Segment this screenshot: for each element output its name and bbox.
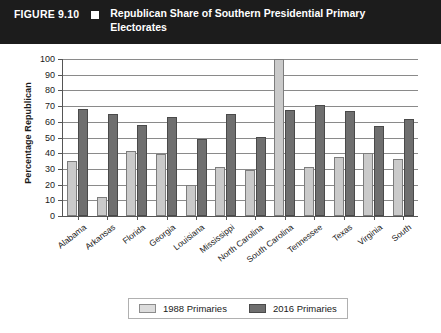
bar-1988 <box>245 170 255 216</box>
y-axis-title: Percentage Republican <box>23 53 33 213</box>
bar-2016 <box>345 111 355 216</box>
y-axis-tick-label: 0 <box>50 211 55 221</box>
black-square-icon <box>91 11 99 19</box>
bar-2016 <box>167 117 177 216</box>
bar-1988 <box>274 59 284 216</box>
bar-2016 <box>256 137 266 216</box>
figure-title: Republican Share of Southern Presidentia… <box>110 7 378 34</box>
y-axis-tick-label: 50 <box>45 133 55 143</box>
x-axis-tick <box>314 216 315 220</box>
x-axis-tick-label: South <box>390 222 414 244</box>
y-axis-tick-label: 20 <box>45 180 55 190</box>
x-axis-tick <box>167 216 168 220</box>
bar-group: Louisiana <box>181 59 211 216</box>
x-axis-tick <box>374 216 375 220</box>
legend-label-2016: 2016 Primaries <box>273 303 337 314</box>
bar-group: Texas <box>329 59 359 216</box>
x-axis-tick <box>403 216 404 220</box>
bar-1988 <box>97 197 107 216</box>
bar-1988 <box>304 167 314 216</box>
bar-group: Arkansas <box>93 59 123 216</box>
y-axis-tick-label: 30 <box>45 164 55 174</box>
bar-2016 <box>285 110 295 216</box>
bar-1988 <box>215 167 225 216</box>
bar-2016 <box>315 105 325 216</box>
x-axis-tick <box>285 216 286 220</box>
legend-swatch-2016-icon <box>249 304 266 313</box>
chart-legend: 1988 Primaries 2016 Primaries <box>128 298 348 319</box>
bar-1988 <box>363 153 373 216</box>
bar-group: South <box>388 59 418 216</box>
bar-2016 <box>78 109 88 216</box>
x-axis-tick-label: Florida <box>120 222 147 246</box>
bar-1988 <box>334 157 344 216</box>
bar-1988 <box>126 151 136 216</box>
bar-2016 <box>197 139 207 216</box>
bar-1988 <box>156 154 166 216</box>
x-axis-tick <box>107 216 108 220</box>
plot-area: 0102030405060708090100 AlabamaArkansasFl… <box>62 59 418 217</box>
x-axis-tick-label: Virginia <box>355 222 383 247</box>
x-axis-tick-label: Arkansas <box>83 222 117 252</box>
bar-group: Florida <box>122 59 152 216</box>
y-axis-tick-label: 70 <box>45 101 55 111</box>
figure-number-label: FIGURE 9.10 <box>14 7 79 20</box>
bar-1988 <box>393 159 403 216</box>
bar-group: Tennessee <box>300 59 330 216</box>
x-axis-tick <box>344 216 345 220</box>
bar-group: Georgia <box>152 59 182 216</box>
legend-item: 1988 Primaries <box>139 303 227 314</box>
x-axis-tick-label: Alabama <box>55 222 88 251</box>
bar-1988 <box>67 161 77 216</box>
x-axis-tick <box>255 216 256 220</box>
bar-group: Mississippi <box>211 59 241 216</box>
bar-group: Virginia <box>359 59 389 216</box>
y-axis-tick-label: 60 <box>45 117 55 127</box>
chart-region: Percentage Republican 010203040506070809… <box>0 44 441 333</box>
y-axis-tick-label: 80 <box>45 85 55 95</box>
y-axis-tick-label: 10 <box>45 195 55 205</box>
bar-group: North Carolina <box>241 59 271 216</box>
bar-series-container: AlabamaArkansasFloridaGeorgiaLouisianaMi… <box>63 59 418 216</box>
bar-2016 <box>374 126 384 216</box>
x-axis-tick <box>226 216 227 220</box>
bar-2016 <box>226 114 236 216</box>
y-axis-tick-label: 90 <box>45 70 55 80</box>
bar-1988 <box>186 185 196 216</box>
bar-2016 <box>137 125 147 216</box>
bar-2016 <box>108 114 118 216</box>
legend-label-1988: 1988 Primaries <box>163 303 227 314</box>
figure-header-bar: FIGURE 9.10 Republican Share of Southern… <box>0 0 441 44</box>
y-axis-tick-label: 100 <box>40 54 55 64</box>
x-axis-tick <box>78 216 79 220</box>
y-axis-tick-label: 40 <box>45 148 55 158</box>
bar-2016 <box>404 119 414 216</box>
x-axis-tick <box>196 216 197 220</box>
bar-group: South Carolina <box>270 59 300 216</box>
y-axis-tick <box>58 216 63 217</box>
legend-swatch-1988-icon <box>139 304 156 313</box>
x-axis-tick <box>137 216 138 220</box>
legend-item: 2016 Primaries <box>249 303 337 314</box>
bar-group: Alabama <box>63 59 93 216</box>
x-axis-tick-label: Texas <box>331 222 355 244</box>
